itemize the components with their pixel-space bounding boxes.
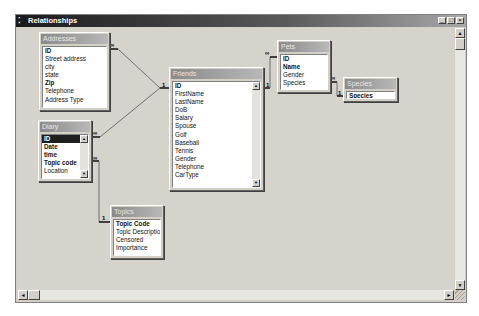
field-item[interactable]: Topic Code: [114, 220, 160, 228]
field-list: ID Street address city state Zip Telepho…: [42, 46, 107, 108]
pets-many-label: ∞: [265, 50, 269, 56]
field-item[interactable]: LastName: [173, 98, 260, 106]
field-list: ID FirstName LastName DoB Salary Spouse …: [172, 81, 261, 188]
field-item[interactable]: city: [43, 63, 106, 71]
addresses-many-label: ∞: [110, 42, 114, 48]
field-item[interactable]: Street address: [43, 55, 106, 63]
pets-species-many-label: ∞: [331, 75, 335, 81]
scroll-down-button[interactable]: ▼: [252, 179, 260, 187]
field-item[interactable]: Golf: [173, 131, 260, 139]
species-one-label: 1: [338, 90, 341, 96]
field-list-scrollbar[interactable]: ▲ ▼: [252, 82, 260, 187]
field-item[interactable]: Telephone: [43, 87, 106, 95]
table-title[interactable]: Pets: [279, 42, 329, 52]
field-item[interactable]: Spouse: [173, 122, 260, 130]
field-item[interactable]: ID: [42, 135, 80, 143]
field-list-scrollbar[interactable]: ▲ ▼: [80, 135, 88, 178]
field-item[interactable]: Gender: [173, 155, 260, 163]
diary-friends-many-label: ∞: [93, 130, 97, 136]
field-item[interactable]: Salary: [173, 114, 260, 122]
field-item[interactable]: Gender: [281, 71, 327, 79]
field-item[interactable]: ID: [281, 55, 327, 63]
topics-one-label: 1: [102, 215, 105, 221]
table-title[interactable]: Topics: [112, 207, 162, 217]
field-item[interactable]: Importance: [114, 244, 160, 252]
table-friends[interactable]: Friends ID FirstName LastName DoB Salary…: [169, 67, 264, 191]
field-item[interactable]: Topic Description: [114, 228, 160, 236]
field-list: Topic Code Topic Description Censored Im…: [113, 219, 161, 256]
field-item[interactable]: CarType: [173, 171, 260, 179]
field-item[interactable]: Censored: [114, 236, 160, 244]
field-list: ID Date time Topic code Location ▲ ▼: [41, 134, 89, 179]
field-item[interactable]: ID: [173, 82, 260, 90]
field-item[interactable]: Tennis: [173, 147, 260, 155]
table-species[interactable]: Species Species: [343, 77, 398, 102]
scroll-down-button[interactable]: ▼: [80, 170, 88, 178]
field-item[interactable]: Baseball: [173, 139, 260, 147]
table-title[interactable]: Friends: [171, 69, 262, 79]
field-item[interactable]: ID: [43, 47, 106, 55]
table-topics[interactable]: Topics Topic Code Topic Description Cens…: [110, 205, 164, 259]
field-item[interactable]: Telephone: [173, 163, 260, 171]
table-pets[interactable]: Pets ID Name Gender Species: [277, 40, 331, 93]
field-list: Species: [346, 91, 395, 99]
field-item[interactable]: state: [43, 71, 106, 79]
scroll-up-button[interactable]: ▲: [252, 82, 260, 90]
friends-one-label: 1: [162, 82, 165, 88]
diary-topics-many-label: ∞: [93, 155, 97, 161]
table-title[interactable]: Diary: [40, 122, 90, 132]
table-diary[interactable]: Diary ID Date time Topic code Location ▲…: [38, 120, 92, 182]
field-list: ID Name Gender Species: [280, 54, 328, 90]
field-item[interactable]: Name: [281, 63, 327, 71]
field-item[interactable]: FirstName: [173, 90, 260, 98]
friends-pets-one-label: 1: [266, 82, 269, 88]
table-addresses[interactable]: Addresses ID Street address city state Z…: [39, 32, 110, 111]
field-item[interactable]: DoB: [173, 106, 260, 114]
field-item[interactable]: Species: [281, 79, 327, 87]
table-title[interactable]: Addresses: [41, 34, 108, 44]
scroll-up-button[interactable]: ▲: [80, 135, 88, 143]
field-item[interactable]: Species: [347, 92, 394, 99]
field-item[interactable]: Zip: [43, 79, 106, 87]
table-title[interactable]: Species: [345, 79, 396, 89]
field-item[interactable]: Address Type: [43, 96, 106, 104]
